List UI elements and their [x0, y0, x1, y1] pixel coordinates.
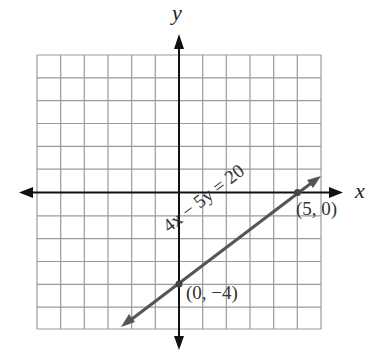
line-arrow-lower-icon — [121, 314, 135, 327]
point-label-x-intercept: (5, 0) — [296, 198, 337, 220]
y-axis-label: y — [172, 0, 182, 26]
x-axis-right-arrow-icon — [329, 187, 343, 198]
y-axis-down-arrow-icon — [174, 336, 184, 350]
point-x-intercept — [294, 189, 301, 196]
x-axis-label: x — [355, 178, 365, 204]
y-axis-up-arrow-icon — [174, 34, 184, 49]
point-y-intercept — [176, 281, 183, 288]
x-axis-left-arrow-icon — [19, 187, 33, 198]
point-label-y-intercept: (0, −4) — [186, 282, 238, 304]
